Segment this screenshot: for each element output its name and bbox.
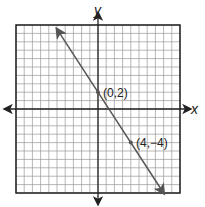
graph-canvas [0, 0, 205, 207]
data-point [129, 141, 133, 145]
point-label-4-neg4: (4,−4) [136, 137, 168, 149]
x-axis-label: x [191, 102, 198, 116]
point-label-0-2: (0,2) [103, 87, 128, 99]
y-axis-label: y [94, 3, 101, 17]
data-point [96, 90, 100, 94]
